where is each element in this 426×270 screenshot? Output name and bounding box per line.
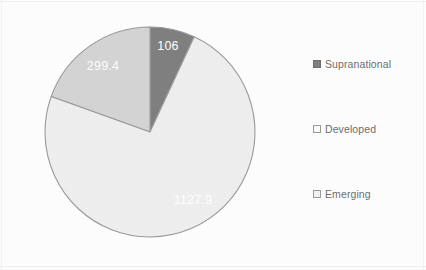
legend-item-supranational[interactable]: Supranational — [313, 56, 421, 72]
legend-label-supranational: Supranational — [325, 58, 391, 70]
legend-swatch-emerging-icon — [313, 190, 321, 198]
legend-label-developed: Developed — [325, 123, 376, 135]
legend-label-emerging: Emerging — [325, 188, 371, 200]
pie-chart-figure: 106299.41127.9 Supranational Developed E… — [0, 0, 426, 270]
pie-label-supranational: 106 — [157, 39, 178, 53]
legend-item-emerging[interactable]: Emerging — [313, 186, 421, 202]
chart-legend: Supranational Developed Emerging — [313, 56, 421, 202]
legend-swatch-supranational-icon — [313, 60, 321, 68]
pie-slices-group — [45, 27, 255, 237]
legend-swatch-developed-icon — [313, 125, 321, 133]
legend-item-developed[interactable]: Developed — [313, 121, 421, 137]
pie-label-emerging: 1127.9 — [174, 193, 213, 207]
pie-label-developed: 299.4 — [87, 59, 119, 73]
